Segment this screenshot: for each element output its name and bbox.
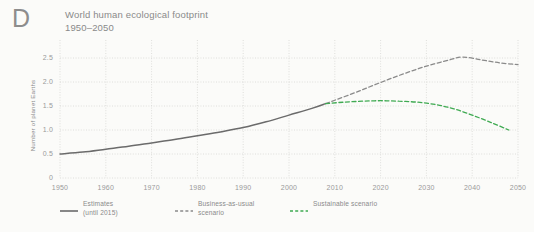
legend-item[interactable]: Business-as-usualscenario [175,200,290,217]
y-tick-label: 2.0 [27,78,53,85]
series-line-1 [326,57,518,104]
legend-label: Sustainable scenario [313,200,377,209]
y-tick-label: 2.5 [27,54,53,61]
x-tick-label: 2040 [452,184,492,191]
legend-swatch-icon [60,201,78,209]
legend-label-line-2: (until 2015) [83,209,118,218]
legend-label: Estimates(until 2015) [83,200,118,217]
x-tick-label: 1960 [86,184,126,191]
legend-label-line-2: scenario [198,209,254,218]
x-tick-label: 2020 [361,184,401,191]
y-tick-label: 1.0 [27,126,53,133]
legend-label: Business-as-usualscenario [198,200,254,217]
x-tick-label: 1970 [132,184,172,191]
y-tick-label: 0.5 [27,150,53,157]
grid-lines [60,40,518,178]
figure-panel: D World human ecological footprint 1950–… [0,0,534,232]
legend-item[interactable]: Estimates(until 2015) [60,200,175,217]
legend-swatch-icon [175,201,193,209]
x-tick-label: 2030 [406,184,446,191]
x-tick-label: 2010 [315,184,355,191]
x-tick-label: 1990 [223,184,263,191]
chart-legend: Estimates(until 2015)Business-as-usualsc… [60,200,377,217]
legend-swatch-icon [290,201,308,209]
y-tick-label: 0 [27,174,53,181]
legend-label-line-1: Sustainable scenario [313,200,377,209]
x-tick-label: 1980 [177,184,217,191]
y-tick-label: 1.5 [27,102,53,109]
x-tick-label: 1950 [40,184,80,191]
series-line-0 [60,104,326,154]
legend-item[interactable]: Sustainable scenario [290,200,377,217]
x-tick-label: 2050 [498,184,534,191]
chart-canvas [0,0,534,232]
legend-label-line-1: Estimates [83,200,118,209]
series-line-2 [326,101,509,130]
plot-area: 00.51.01.52.02.5 19501960197019801990200… [0,0,534,232]
legend-label-line-1: Business-as-usual [198,200,254,209]
x-tick-label: 2000 [269,184,309,191]
